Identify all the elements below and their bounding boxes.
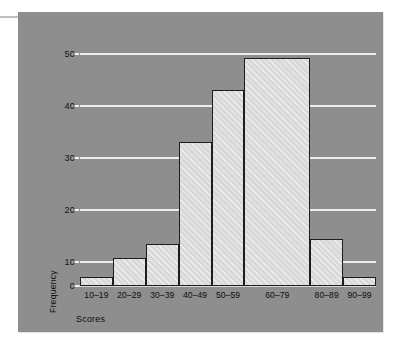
ytick-label-10: 10 (65, 257, 75, 267)
x-axis-label: Scores (76, 314, 105, 324)
xtick-label-7: 90–99 (347, 290, 371, 300)
bar-90-99 (343, 277, 376, 286)
chart-panel: 50 40 30 20 10 0 10–19 20–29 30–39 40–49… (18, 12, 383, 332)
xtick-label-3: 40–49 (183, 290, 207, 300)
bar-40-49 (179, 142, 212, 286)
plot-area: 50 40 30 20 10 0 10–19 20–29 30–39 40–49… (80, 30, 376, 290)
ytick-label-40: 40 (65, 101, 75, 111)
xtick-label-4: 50–59 (216, 290, 240, 300)
xtick-label-0: 10–19 (84, 290, 108, 300)
bar-20-29 (113, 258, 146, 286)
ytick-label-0: 0 (70, 281, 75, 291)
xtick-label-2: 30–39 (150, 290, 174, 300)
bar-80-89 (310, 239, 343, 286)
xtick-label-6: 80–89 (315, 290, 339, 300)
xtick-label-1: 20–29 (117, 290, 141, 300)
xtick-label-5: 60–79 (265, 290, 289, 300)
y-axis-label: Frequency (48, 251, 58, 313)
ytick-label-20: 20 (65, 205, 75, 215)
ytick-label-50: 50 (65, 49, 75, 59)
bar-60-79 (244, 58, 310, 286)
bar-30-39 (146, 244, 179, 286)
bar-50-59 (212, 90, 245, 286)
ytick-label-30: 30 (65, 153, 75, 163)
gridline-50 (80, 53, 376, 55)
bar-10-19 (80, 277, 113, 286)
